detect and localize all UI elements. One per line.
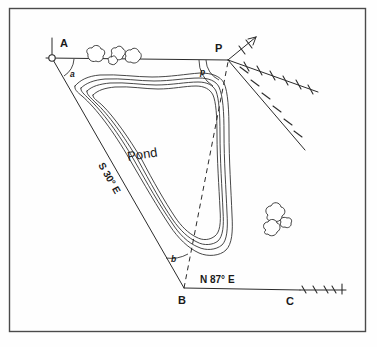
station-label-p: P: [215, 42, 222, 54]
angle-label-b: b: [171, 254, 176, 264]
bush-icon: [125, 48, 141, 63]
bearing-label-bc: N 87° E: [200, 274, 235, 285]
bush-cluster-lower-right: [264, 203, 292, 236]
hatched-ray-mid: [228, 60, 318, 94]
angle-arc-p: [206, 60, 219, 80]
bush-cluster-top: [87, 45, 141, 64]
station-label-c: C: [286, 295, 294, 307]
survey-figure: A B C P a b p S 30° E N 87° E Pond: [0, 0, 377, 347]
line-a-b: [52, 58, 184, 288]
angle-label-p: p: [199, 67, 205, 77]
station-marker-a: [49, 55, 55, 61]
bush-icon: [264, 219, 280, 235]
hatched-line-beyond-c: [300, 284, 346, 294]
ray-low-ticks: [240, 67, 302, 137]
bearing-label-ab: S 30° E: [96, 161, 123, 196]
angle-label-a: a: [70, 69, 75, 79]
station-label-b: B: [178, 294, 186, 306]
bush-icon: [108, 56, 117, 65]
station-label-a: A: [60, 37, 68, 49]
feature-label-pond: Pond: [126, 144, 158, 164]
figure-border: [10, 9, 366, 332]
hatched-ray-up: [228, 37, 256, 60]
line-b-c: [184, 288, 300, 290]
survey-diagram-canvas: A B C P a b p S 30° E N 87° E Pond: [0, 0, 377, 347]
bush-icon: [280, 217, 291, 227]
bush-icon: [87, 45, 105, 61]
angle-arc-b: [166, 254, 188, 258]
beyond-c-ticks: [302, 284, 342, 294]
hatched-rays-from-p: [228, 37, 318, 150]
